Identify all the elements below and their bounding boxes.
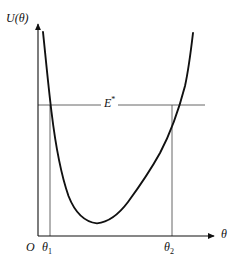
theta1-subscript: 1 (48, 247, 52, 256)
theta1-label: θ1 (42, 241, 52, 256)
energy-label-superscript: * (111, 95, 115, 104)
plot-canvas (0, 0, 244, 269)
x-axis-label: θ (221, 228, 227, 240)
potential-energy-diagram: U(θ) E* O θ1 θ2 θ (0, 0, 244, 269)
y-axis-label: U(θ) (6, 12, 29, 24)
potential-curve (43, 32, 193, 223)
origin-label: O (26, 241, 35, 253)
theta2-subscript: 2 (170, 247, 174, 256)
energy-level-label: E* (101, 96, 118, 109)
theta2-label: θ2 (164, 241, 174, 256)
